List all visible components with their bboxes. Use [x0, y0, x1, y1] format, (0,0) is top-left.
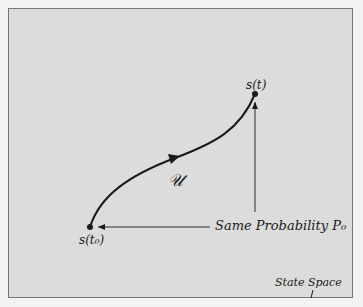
- trajectory-diagram: [0, 0, 363, 307]
- label-tick: [311, 290, 313, 298]
- start-state-label: s(t₀): [79, 233, 104, 247]
- page: s(t) s(t₀) 𝒰 Same Probability P₀ State S…: [0, 0, 363, 307]
- state-space-label: State Space: [275, 276, 342, 289]
- probability-annotation: Same Probability P₀: [215, 218, 346, 233]
- direction-arrow-icon: [168, 154, 180, 164]
- end-state-label: s(t): [246, 78, 266, 92]
- path-label: 𝒰: [168, 170, 183, 190]
- start-state-point: [87, 224, 93, 230]
